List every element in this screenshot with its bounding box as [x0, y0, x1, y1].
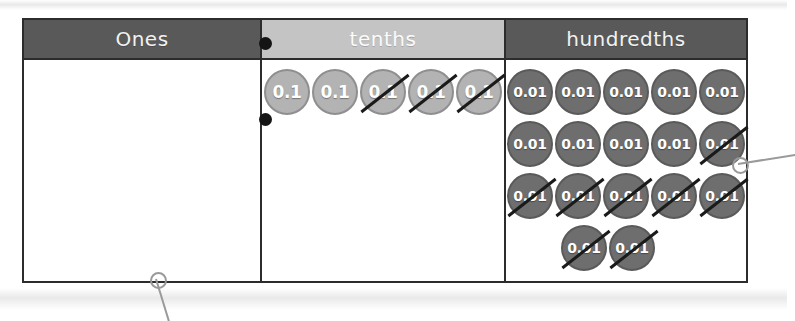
- disc-crossed-out[interactable]: 0.1: [456, 69, 502, 115]
- disc-label: 0.01: [561, 85, 594, 99]
- column-header-ones-label: Ones: [115, 27, 168, 51]
- disc-crossed-out[interactable]: 0.01: [609, 225, 655, 271]
- disc-label: 0.01: [657, 137, 690, 151]
- disc-crossed-out[interactable]: 0.01: [651, 173, 697, 219]
- column-header-hundredths-label: hundredths: [566, 27, 685, 51]
- scan-band-top: [0, 0, 787, 10]
- disc-label: 0.01: [513, 189, 546, 203]
- disc-crossed-out[interactable]: 0.1: [408, 69, 454, 115]
- disc-label: 0.1: [416, 84, 445, 101]
- disc-label: 0.1: [272, 84, 301, 101]
- disc-label: 0.01: [705, 189, 738, 203]
- disc-label: 0.01: [561, 137, 594, 151]
- disc[interactable]: 0.01: [603, 69, 649, 115]
- chart-header-row: Ones tenths hundredths: [24, 20, 746, 60]
- disc-label: 0.01: [609, 189, 642, 203]
- disc-label: 0.01: [609, 85, 642, 99]
- decimal-point-header: [259, 37, 272, 50]
- disc-label: 0.01: [561, 189, 594, 203]
- column-header-tenths: tenths: [262, 20, 506, 58]
- decimal-point-body: [259, 113, 272, 126]
- disc[interactable]: 0.01: [651, 69, 697, 115]
- disc-label: 0.01: [657, 189, 690, 203]
- chart-body-row: 0.10.10.10.10.1 0.010.010.010.010.010.01…: [24, 60, 746, 281]
- disc-label: 0.1: [368, 84, 397, 101]
- hundredths-disc-area[interactable]: 0.010.010.010.010.010.010.010.010.010.01…: [506, 60, 746, 281]
- disc[interactable]: 0.01: [555, 121, 601, 167]
- disc-label: 0.1: [464, 84, 493, 101]
- disc-label: 0.01: [567, 241, 600, 255]
- disc-label: 0.01: [705, 85, 738, 99]
- place-value-chart: Ones tenths hundredths 0.10.10.10.10.1 0…: [22, 18, 748, 283]
- ones-disc-area[interactable]: [24, 60, 260, 281]
- column-body-hundredths[interactable]: 0.010.010.010.010.010.010.010.010.010.01…: [506, 60, 746, 281]
- disc-row: 0.010.010.010.010.01: [510, 118, 742, 170]
- column-header-tenths-label: tenths: [350, 27, 417, 51]
- disc-crossed-out[interactable]: 0.01: [699, 173, 745, 219]
- disc-label: 0.01: [657, 85, 690, 99]
- disc-row: 0.010.010.010.010.01: [510, 170, 742, 222]
- disc-label: 0.01: [513, 137, 546, 151]
- disc-label: 0.01: [615, 241, 648, 255]
- disc-label: 0.01: [609, 137, 642, 151]
- callout-bottom-left-handle[interactable]: [150, 272, 167, 289]
- disc[interactable]: 0.01: [699, 69, 745, 115]
- disc-label: 0.01: [513, 85, 546, 99]
- column-body-tenths[interactable]: 0.10.10.10.10.1: [262, 60, 506, 281]
- disc-crossed-out[interactable]: 0.01: [555, 173, 601, 219]
- column-header-hundredths: hundredths: [506, 20, 746, 58]
- disc-row: 0.10.10.10.10.1: [266, 66, 500, 118]
- disc-label: 0.01: [705, 137, 738, 151]
- column-body-ones[interactable]: [24, 60, 262, 281]
- disc-row: 0.010.010.010.010.01: [510, 66, 742, 118]
- disc-crossed-out[interactable]: 0.1: [360, 69, 406, 115]
- disc[interactable]: 0.01: [507, 121, 553, 167]
- disc[interactable]: 0.01: [507, 69, 553, 115]
- disc-crossed-out[interactable]: 0.01: [507, 173, 553, 219]
- disc-crossed-out[interactable]: 0.01: [603, 173, 649, 219]
- scan-band-bottom: [0, 288, 787, 310]
- disc[interactable]: 0.01: [651, 121, 697, 167]
- disc[interactable]: 0.1: [312, 69, 358, 115]
- disc-label: 0.1: [320, 84, 349, 101]
- disc[interactable]: 0.01: [603, 121, 649, 167]
- disc-row: 0.010.01: [510, 222, 742, 274]
- disc-crossed-out[interactable]: 0.01: [561, 225, 607, 271]
- column-header-ones: Ones: [24, 20, 262, 58]
- callout-right-handle[interactable]: [732, 157, 749, 174]
- disc[interactable]: 0.01: [555, 69, 601, 115]
- disc[interactable]: 0.1: [264, 69, 310, 115]
- tenths-disc-area[interactable]: 0.10.10.10.10.1: [262, 60, 504, 281]
